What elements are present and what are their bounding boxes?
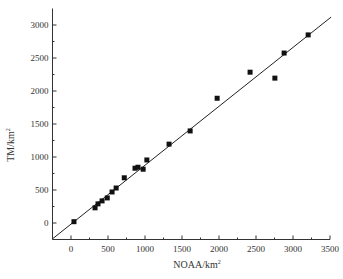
x-tick-label: 0 — [69, 244, 74, 254]
x-tick-label: 3500 — [321, 244, 340, 254]
data-point-marker — [215, 96, 220, 101]
y-tick-label: 2000 — [31, 86, 50, 96]
data-point-marker — [306, 32, 311, 37]
y-tick-label: 500 — [35, 185, 49, 195]
y-axis-label: TM/km2 — [5, 128, 16, 162]
axis-ticks: 0500100015002000250030003500050010001500… — [31, 20, 340, 254]
x-tick-label: 2500 — [247, 244, 266, 254]
data-point-marker — [141, 167, 146, 172]
data-point-marker — [100, 198, 105, 203]
y-tick-label: 0 — [44, 218, 49, 228]
data-point-marker — [114, 186, 119, 191]
x-tick-label: 1000 — [136, 244, 155, 254]
data-point-marker — [135, 165, 140, 170]
x-tick-label: 1500 — [173, 244, 192, 254]
y-tick-label: 2500 — [31, 53, 50, 63]
y-tick-label: 1500 — [31, 119, 50, 129]
x-tick-label: 500 — [101, 244, 115, 254]
x-tick-label: 3000 — [284, 244, 303, 254]
data-point-marker — [105, 195, 110, 200]
data-point-marker — [188, 128, 193, 133]
data-point-marker — [71, 219, 76, 224]
x-tick-label: 2000 — [210, 244, 229, 254]
data-point-marker — [282, 51, 287, 56]
axes — [53, 9, 331, 240]
y-tick-label: 1000 — [31, 152, 50, 162]
data-point-marker — [167, 142, 172, 147]
scatter-chart: 0500100015002000250030003500050010001500… — [0, 0, 343, 279]
data-point-marker — [272, 76, 277, 81]
y-tick-label: 3000 — [31, 20, 50, 30]
data-point-marker — [144, 157, 149, 162]
x-axis-label: NOAA/km2 — [173, 259, 220, 270]
data-point-marker — [248, 70, 253, 75]
data-point-marker — [122, 175, 127, 180]
